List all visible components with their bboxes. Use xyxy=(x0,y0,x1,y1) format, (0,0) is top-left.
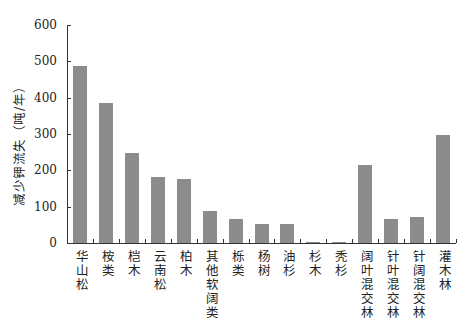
x-tick-label: 杨树 xyxy=(254,250,270,278)
y-tick-label: 200 xyxy=(17,164,57,176)
x-axis xyxy=(67,243,456,244)
x-tick xyxy=(223,239,224,243)
x-tick-label: 杉木 xyxy=(305,250,321,278)
bar xyxy=(410,217,424,243)
bar xyxy=(229,219,243,243)
y-tick-label: 500 xyxy=(17,55,57,67)
bar xyxy=(177,179,191,243)
y-tick-label: 600 xyxy=(17,19,57,31)
x-tick-label: 其他软阔类 xyxy=(202,250,218,320)
x-tick-label: 桉类 xyxy=(98,250,114,278)
y-tick-label: 300 xyxy=(17,128,57,140)
x-tick-label: 华山松 xyxy=(72,250,88,292)
bar xyxy=(384,219,398,243)
x-tick-label: 油杉 xyxy=(279,250,295,278)
bar xyxy=(203,211,217,243)
x-tick xyxy=(300,239,301,243)
x-tick-label: 灌木林 xyxy=(435,250,451,292)
y-tick-label: 100 xyxy=(17,201,57,213)
x-tick-label: 云南松 xyxy=(150,250,166,292)
x-tick-label: 秃杉 xyxy=(331,250,347,278)
x-tick-label: 针阔混交林 xyxy=(409,250,425,320)
x-tick xyxy=(326,239,327,243)
bar xyxy=(306,242,320,243)
y-tick xyxy=(67,134,71,135)
x-tick xyxy=(93,239,94,243)
x-tick xyxy=(456,239,457,243)
bar xyxy=(280,224,294,243)
bar xyxy=(99,103,113,243)
y-tick xyxy=(67,25,71,26)
y-tick xyxy=(67,61,71,62)
y-tick xyxy=(67,98,71,99)
x-tick xyxy=(249,239,250,243)
bar xyxy=(255,224,269,243)
x-tick-label: 桤木 xyxy=(124,250,140,278)
x-tick xyxy=(197,239,198,243)
x-tick xyxy=(352,239,353,243)
x-tick xyxy=(119,239,120,243)
bar xyxy=(73,66,87,243)
y-tick xyxy=(67,170,71,171)
x-tick-label: 柏木 xyxy=(176,250,192,278)
bar xyxy=(358,165,372,243)
bar xyxy=(151,177,165,243)
y-tick-label: 400 xyxy=(17,92,57,104)
x-tick xyxy=(404,239,405,243)
y-tick xyxy=(67,207,71,208)
x-tick xyxy=(171,239,172,243)
x-tick-label: 栎类 xyxy=(228,250,244,278)
x-tick-label: 针叶混交林 xyxy=(383,250,399,320)
y-tick xyxy=(67,243,71,244)
x-tick xyxy=(274,239,275,243)
y-axis-label: 减少钾流失（吨/年） xyxy=(9,63,28,223)
bar-chart: 减少钾流失（吨/年） 0100200300400500600 华山松桉类桤木云南… xyxy=(0,0,471,329)
y-tick-label: 0 xyxy=(17,237,57,249)
x-tick xyxy=(430,239,431,243)
x-tick xyxy=(378,239,379,243)
x-tick-label: 阔叶混交林 xyxy=(357,250,373,320)
bar xyxy=(125,153,139,243)
bar xyxy=(332,242,346,243)
x-tick xyxy=(145,239,146,243)
bar xyxy=(436,135,450,243)
